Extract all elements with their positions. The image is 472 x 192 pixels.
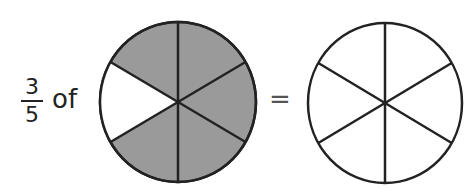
right-circle [308,23,462,183]
left-circle [100,22,256,182]
fraction-circles [0,0,472,192]
